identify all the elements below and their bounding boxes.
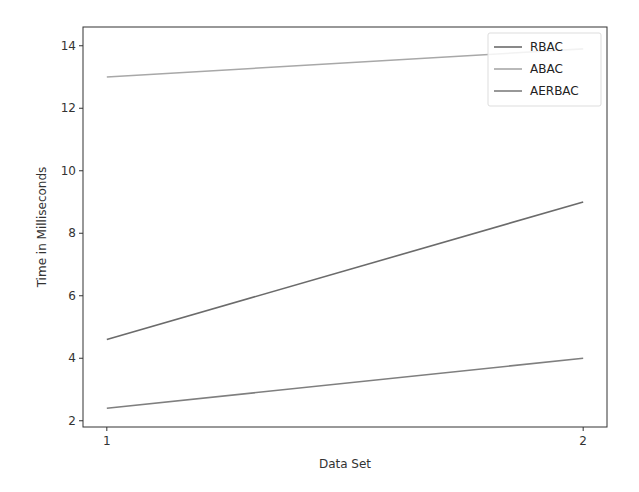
- x-axis-label: Data Set: [319, 457, 371, 471]
- legend: RBACABACAERBAC: [488, 33, 601, 106]
- x-axis-ticks: 12: [103, 427, 587, 448]
- line-chart: 2468101214 12 Data Set Time in Milliseco…: [0, 0, 639, 492]
- y-tick-label: 12: [61, 101, 76, 115]
- y-tick-label: 14: [61, 39, 76, 53]
- y-tick-label: 2: [68, 414, 76, 428]
- y-tick-label: 10: [61, 164, 76, 178]
- y-tick-label: 4: [68, 351, 76, 365]
- legend-label: ABAC: [530, 62, 563, 76]
- y-tick-label: 6: [68, 289, 76, 303]
- x-tick-label: 1: [103, 434, 111, 448]
- y-axis-label: Time in Milliseconds: [35, 167, 49, 289]
- x-tick-label: 2: [579, 434, 587, 448]
- legend-label: AERBAC: [530, 84, 579, 98]
- y-axis-ticks: 2468101214: [61, 39, 83, 428]
- y-tick-label: 8: [68, 226, 76, 240]
- legend-label: RBAC: [530, 40, 563, 54]
